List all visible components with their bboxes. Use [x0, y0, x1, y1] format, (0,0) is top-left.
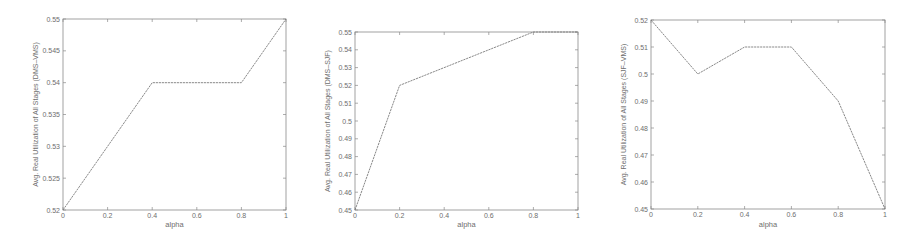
- y-tick-label: 0.49: [338, 135, 352, 142]
- y-tick-label: 0.47: [634, 152, 648, 159]
- x-tick-label: 1: [284, 212, 288, 219]
- x-tick-label: 0.4: [740, 211, 750, 218]
- y-axis-label: Avg. Real Utilization of All Stages (SJF…: [620, 44, 628, 185]
- y-tick-label: 0.46: [634, 179, 648, 186]
- y-tick-label: 0.55: [46, 16, 60, 23]
- x-tick-label: 0.2: [395, 212, 405, 219]
- y-tick-label: 0.54: [338, 46, 352, 53]
- y-tick-label: 0.47: [338, 171, 352, 178]
- x-axis-label: alpha: [165, 220, 184, 229]
- y-tick-label: 0.45: [634, 206, 648, 213]
- x-tick-label: 0: [353, 212, 357, 219]
- x-tick-label: 0.4: [147, 212, 157, 219]
- x-tick-label: 0.6: [484, 212, 494, 219]
- plot-area: [651, 20, 885, 209]
- y-tick-label: 0.525: [42, 175, 60, 182]
- y-tick-label: 0.52: [46, 207, 60, 214]
- x-tick-label: 0: [61, 212, 65, 219]
- y-axis-label: Avg. Real Utilization of All Stages (DMS…: [32, 42, 40, 187]
- y-tick-label: 0.53: [46, 143, 60, 150]
- y-tick-label: 0.48: [338, 153, 352, 160]
- y-tick-label: 0.45: [338, 207, 352, 214]
- y-tick-label: 0.52: [634, 17, 648, 24]
- y-tick-label: 0.55: [338, 29, 352, 36]
- y-tick-label: 0.51: [634, 44, 648, 51]
- chart-dms-vms: 0.520.5250.530.5350.540.5450.55 00.20.40…: [32, 16, 288, 230]
- y-tick-label: 0.54: [46, 79, 60, 86]
- y-tick-label: 0.5: [342, 118, 352, 125]
- chart-sjf-vms: 0.450.460.470.480.490.50.510.52 00.20.40…: [620, 17, 887, 230]
- y-tick-label: 0.51: [338, 100, 352, 107]
- y-tick-label: 0.52: [338, 82, 352, 89]
- x-tick-label: 0.2: [693, 211, 703, 218]
- x-tick-label: 1: [576, 212, 580, 219]
- y-tick-label: 0.46: [338, 189, 352, 196]
- chart-dms-sjf: 0.450.460.470.480.490.50.510.520.530.540…: [324, 29, 580, 230]
- x-tick-label: 0.8: [237, 212, 247, 219]
- x-tick-label: 0.8: [529, 212, 539, 219]
- figure: 0.520.5250.530.5350.540.5450.55 00.20.40…: [0, 0, 912, 237]
- y-tick-label: 0.5: [638, 71, 648, 78]
- x-tick-label: 0.6: [787, 211, 797, 218]
- y-axis-label: Avg. Real Utilization of All Stages (DMS…: [324, 50, 332, 192]
- x-tick-label: 0.8: [833, 211, 843, 218]
- plot-area: [63, 19, 286, 210]
- y-tick-label: 0.535: [42, 111, 60, 118]
- y-tick-label: 0.545: [42, 47, 60, 54]
- y-tick-label: 0.53: [338, 64, 352, 71]
- x-tick-label: 0: [649, 211, 653, 218]
- y-tick-label: 0.48: [634, 125, 648, 132]
- x-tick-label: 0.2: [103, 212, 113, 219]
- x-tick-label: 1: [883, 211, 887, 218]
- x-axis-label: alpha: [759, 220, 778, 229]
- x-tick-label: 0.4: [439, 212, 449, 219]
- x-tick-label: 0.6: [192, 212, 202, 219]
- y-tick-label: 0.49: [634, 98, 648, 105]
- x-axis-label: alpha: [457, 220, 476, 229]
